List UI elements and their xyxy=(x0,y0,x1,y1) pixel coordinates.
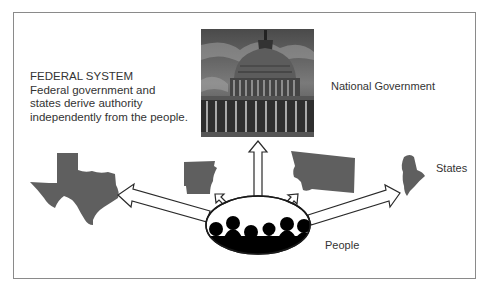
montana-shape xyxy=(291,151,355,193)
arkansas-shape xyxy=(184,161,217,194)
texas-shape xyxy=(30,153,119,225)
people-crowd-image xyxy=(200,196,320,261)
arrow-to-national-government xyxy=(249,141,267,197)
maine-shape xyxy=(402,155,425,196)
capitol-building-image xyxy=(201,29,314,137)
